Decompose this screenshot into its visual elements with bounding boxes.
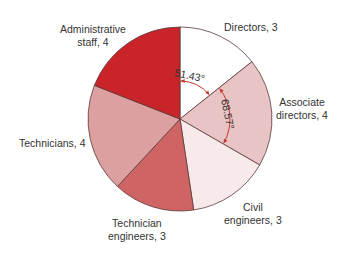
pie-chart: 51.43° 68.57° bbox=[0, 0, 346, 254]
label-technician-engineers: Technician engineers, 3 bbox=[108, 217, 166, 243]
label-civil-engineers: Civil engineers, 3 bbox=[224, 201, 282, 227]
label-technicians: Technicians, 4 bbox=[19, 137, 86, 150]
label-administrative-staff: Administrative staff, 4 bbox=[60, 23, 126, 49]
label-associate-directors: Associate directors, 4 bbox=[276, 96, 328, 122]
label-directors: Directors, 3 bbox=[224, 21, 278, 34]
pie-slices bbox=[88, 27, 272, 211]
